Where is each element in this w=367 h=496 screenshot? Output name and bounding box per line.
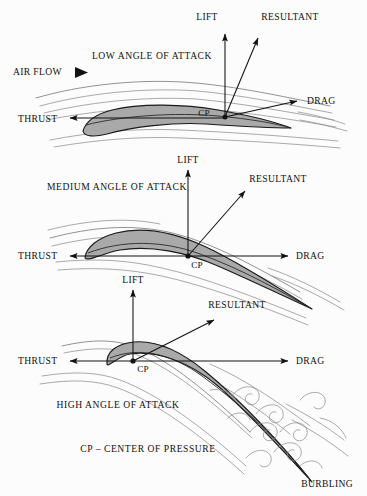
streamlines-medium	[48, 220, 344, 325]
airflow-right-triangle-icon	[75, 67, 88, 78]
cp-label-low: CP	[198, 108, 210, 118]
lift-label-medium: LIFT	[177, 154, 199, 165]
lift-label-high: LIFT	[122, 274, 144, 285]
resultant-label-low: RESULTANT	[261, 11, 318, 22]
drag-label-low: DRAG	[307, 95, 336, 106]
airflow-label: AIR FLOW	[13, 66, 62, 77]
burbling-label: BURBLING	[301, 478, 353, 489]
cp-label-high: CP	[137, 364, 149, 374]
heading-medium-angle: MEDIUM ANGLE OF ATTACK	[47, 181, 187, 192]
resultant-vector-medium	[188, 191, 245, 256]
heading-low-angle: LOW ANGLE OF ATTACK	[92, 50, 212, 61]
resultant-vector-low	[225, 38, 258, 117]
thrust-label-medium: THRUST	[18, 250, 57, 261]
angle-of-attack-diagram: LIFT RESULTANT DRAG THRUST CP LOW ANGLE …	[0, 0, 367, 496]
panel-low-angle-of-attack: LIFT RESULTANT DRAG THRUST CP LOW ANGLE …	[13, 11, 347, 148]
cp-point-medium	[185, 253, 190, 258]
thrust-label-high: THRUST	[18, 355, 57, 366]
airfoil-high	[107, 342, 312, 482]
resultant-label-medium: RESULTANT	[249, 173, 306, 184]
diagram-canvas: LIFT RESULTANT DRAG THRUST CP LOW ANGLE …	[0, 0, 367, 496]
legend-center-of-pressure: CP – CENTER OF PRESSURE	[80, 443, 215, 454]
cp-point-low	[223, 115, 228, 120]
cp-point-high	[130, 358, 135, 363]
drag-vector-low	[225, 101, 297, 117]
drag-label-medium: DRAG	[296, 250, 325, 261]
drag-label-high: DRAG	[296, 355, 325, 366]
cp-label-medium: CP	[191, 260, 203, 270]
lift-label-low: LIFT	[196, 11, 218, 22]
burbling-vortices	[210, 387, 346, 468]
thrust-label-low: THRUST	[18, 113, 57, 124]
panel-high-angle-of-attack: LIFT RESULTANT DRAG THRUST CP HIGH ANGLE…	[18, 274, 353, 489]
panel-medium-angle-of-attack: LIFT RESULTANT DRAG THRUST CP MEDIUM ANG…	[18, 154, 344, 325]
heading-high-angle: HIGH ANGLE OF ATTACK	[57, 399, 180, 410]
resultant-label-high: RESULTANT	[208, 299, 265, 310]
